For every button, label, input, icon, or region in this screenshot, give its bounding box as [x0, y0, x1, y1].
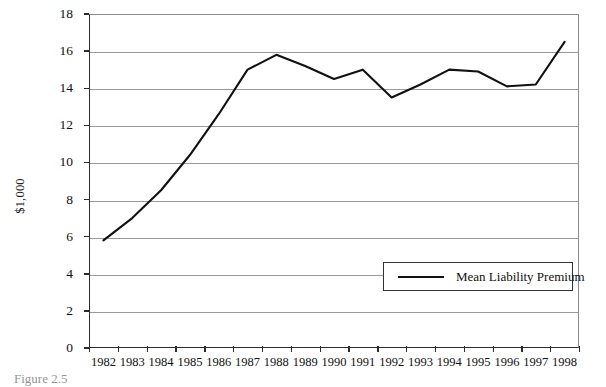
x-axis-tick-mark	[464, 346, 465, 352]
x-axis-tick-mark	[262, 346, 263, 352]
x-axis-tick-mark	[320, 346, 321, 352]
chart-legend: Mean Liability Premium	[383, 262, 573, 291]
x-axis-tick-mark	[291, 346, 292, 352]
x-axis-tick-mark	[521, 346, 522, 352]
x-axis-tick-label: 1985	[177, 356, 202, 369]
x-axis-tick-mark	[579, 346, 580, 352]
x-axis-tick-mark	[118, 346, 119, 352]
x-axis-tick-mark	[406, 346, 407, 352]
x-axis-tick-mark	[435, 346, 436, 352]
line-series-mean-liability-premium	[103, 42, 564, 241]
figure-caption: Figure 2.5	[14, 371, 67, 387]
x-axis-tick-mark	[233, 346, 234, 352]
x-axis-tick-label: 1988	[264, 356, 289, 369]
legend-swatch-mean-liability-premium	[398, 276, 444, 278]
x-axis-tick-label: 1995	[466, 356, 491, 369]
x-axis-tick-mark	[377, 346, 378, 352]
legend-label-mean-liability-premium: Mean Liability Premium	[456, 269, 585, 285]
x-axis-tick-mark	[204, 346, 205, 352]
x-axis-tick-mark	[175, 346, 176, 352]
x-axis-tick-label: 1987	[235, 356, 260, 369]
x-axis-tick-label: 1991	[350, 356, 375, 369]
x-axis-tick-label: 1997	[523, 356, 548, 369]
x-axis-tick-label: 1994	[437, 356, 462, 369]
x-axis-tick-mark	[147, 346, 148, 352]
x-axis-tick-label: 1984	[149, 356, 174, 369]
x-axis-tick-label: 1990	[322, 356, 347, 369]
x-axis-tick-label: 1986	[206, 356, 231, 369]
x-axis-tick-label: 1998	[552, 356, 577, 369]
x-axis-tick-label: 1993	[408, 356, 433, 369]
x-axis-tick-label: 1989	[293, 356, 318, 369]
x-axis-tick-label: 1996	[494, 356, 519, 369]
x-axis-tick-mark	[493, 346, 494, 352]
x-axis-labels: 1982198319841985198619871988198919901991…	[89, 352, 579, 372]
x-axis-tick-mark	[348, 346, 349, 352]
x-axis-tick-mark	[89, 346, 90, 352]
x-axis-tick-label: 1982	[91, 356, 116, 369]
x-axis-tick-label: 1992	[379, 356, 404, 369]
x-axis-tick-label: 1983	[120, 356, 145, 369]
x-axis-tick-mark	[550, 346, 551, 352]
